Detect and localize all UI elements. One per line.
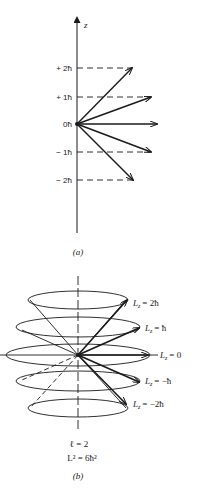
label-lz-plus2: Lz= 2ħ bbox=[132, 298, 159, 309]
cone-mid-left-lower bbox=[22, 355, 78, 380]
tick-label-plus2: + 2ħ bbox=[56, 64, 72, 73]
figure-a: z + 2ħ + 1ħ 0ħ − 1ħ − 2ħ (a) bbox=[56, 20, 157, 257]
label-lz-minus2: Lz= −2ħ bbox=[132, 399, 164, 410]
quantum-number-l: ℓ = 2 bbox=[70, 439, 88, 449]
b-vector-plus1 bbox=[78, 328, 139, 355]
vector-plus2 bbox=[77, 68, 132, 124]
label-lz-zero: Lz= 0 bbox=[159, 350, 182, 361]
label-lz-plus1: Lz= ħ bbox=[144, 323, 167, 334]
b-origin-dot bbox=[76, 353, 80, 357]
vector-plus1 bbox=[77, 97, 151, 124]
cone-mid-left-upper bbox=[22, 330, 78, 355]
tick-label-minus2: − 2ħ bbox=[56, 176, 72, 185]
caption-b: (b) bbox=[73, 471, 84, 481]
label-lz-minus1: Lz= −ħ bbox=[144, 376, 172, 387]
z-axis-label: z bbox=[83, 20, 88, 30]
tick-label-zero: 0ħ bbox=[63, 120, 72, 129]
origin-dot bbox=[75, 122, 79, 126]
caption-a: (a) bbox=[73, 247, 84, 257]
angular-momentum-diagram: z + 2ħ + 1ħ 0ħ − 1ħ − 2ħ (a) bbox=[0, 0, 197, 490]
vector-minus1 bbox=[77, 124, 151, 152]
b-vector-minus1 bbox=[78, 355, 139, 382]
figure-b-labels: Lz= 2ħ Lz= ħ Lz= 0 Lz= −ħ Lz= −2ħ ℓ = 2 … bbox=[67, 298, 181, 481]
tick-label-plus1: + 1ħ bbox=[56, 93, 72, 102]
vector-minus2 bbox=[77, 124, 133, 180]
l-squared: L² = 6ħ² bbox=[67, 453, 97, 463]
b-vector-minus2 bbox=[78, 355, 126, 404]
tick-label-minus1: − 1ħ bbox=[56, 148, 72, 157]
